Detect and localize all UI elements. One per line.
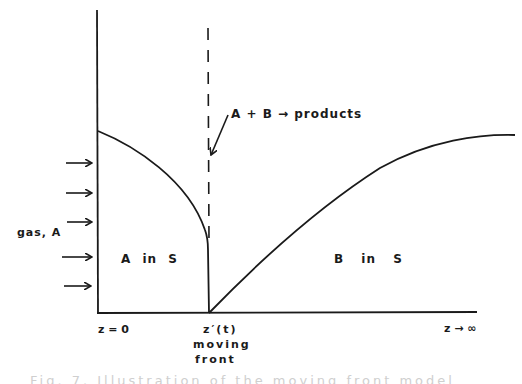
figure-caption: Fig. 7. Illustration of the moving front… [30,374,492,384]
moving-front-dashed-line [208,28,209,243]
gas-source-label: gas, A [17,227,61,238]
horizontal-axis [97,312,477,313]
reaction-label: A + B → products [231,108,362,120]
z-infinity-label: z → ∞ [444,323,476,334]
region-b-label: B in S [334,253,403,265]
concentration-curve-a [98,131,209,313]
moving-front-diagram: A + B → products gas, A A in S B in S z … [0,0,522,384]
front-label: front [195,354,236,365]
z-front-label: z′(t) [203,324,238,335]
reaction-pointer-arrow [211,115,228,155]
vertical-axis [97,10,98,313]
moving-label: moving [193,339,251,350]
region-a-label: A in S [121,253,178,265]
concentration-curve-b [209,135,515,313]
z-origin-label: z = 0 [98,324,129,335]
gas-inflow-arrows [62,163,92,286]
